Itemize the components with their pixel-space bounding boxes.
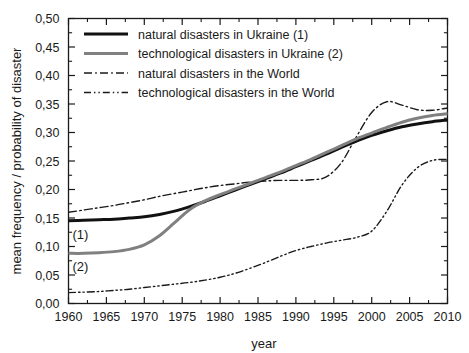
- y-axis-tick-label: 0,05: [35, 269, 59, 283]
- x-axis-tick-label: 1970: [130, 310, 158, 324]
- y-axis-title: mean frequency / probability of disaster: [9, 47, 24, 275]
- y-axis-tick-label: 0,35: [35, 98, 59, 112]
- y-axis-tick-label: 0,50: [35, 12, 59, 26]
- x-axis-tick-label: 1980: [206, 310, 234, 324]
- x-axis-tick-label: 1960: [55, 310, 83, 324]
- x-axis-title: year: [251, 336, 277, 351]
- legend-label-3: natural disasters in the World: [138, 67, 300, 81]
- x-axis-tick-label: 2005: [396, 310, 424, 324]
- x-axis-tick-label: 1995: [320, 310, 348, 324]
- legend-label-1: natural disasters in Ukraine (1): [138, 28, 308, 42]
- x-axis-tick-label: 2010: [434, 310, 462, 324]
- x-axis-tick-label: 2000: [358, 310, 386, 324]
- y-axis-tick-label: 0,15: [35, 212, 59, 226]
- x-axis-tick-label: 1975: [168, 310, 196, 324]
- x-axis-tick-label: 1965: [92, 310, 120, 324]
- y-axis-tick-label: 0,40: [35, 69, 59, 83]
- disaster-frequency-line-chart: 1960196519701975198019851990199520002005…: [0, 0, 469, 353]
- legend-label-2: technological disasters in Ukraine (2): [138, 47, 343, 61]
- legend-label-4: technological disasters in the World: [138, 86, 334, 100]
- y-axis-tick-label: 0,20: [35, 183, 59, 197]
- x-axis-tick-label: 1990: [282, 310, 310, 324]
- plot-frame: [69, 19, 448, 304]
- y-axis-tick-label: 0,45: [35, 41, 59, 55]
- series-tag-1: (1): [73, 227, 89, 242]
- y-axis-tick-label: 0,25: [35, 155, 59, 169]
- y-axis-tick-label: 0,10: [35, 240, 59, 254]
- x-axis-tick-label: 1985: [244, 310, 272, 324]
- y-axis-tick-label: 0,30: [35, 126, 59, 140]
- series-tag-2: (2): [73, 259, 89, 274]
- y-axis-tick-label: 0,00: [35, 297, 59, 311]
- chart-container: 1960196519701975198019851990199520002005…: [0, 0, 469, 353]
